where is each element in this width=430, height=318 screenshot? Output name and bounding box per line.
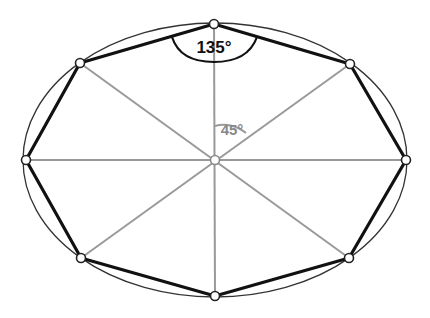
interior-angle-label: 135°: [196, 38, 231, 57]
vertex-center: [211, 156, 220, 165]
vertex-top-right: [346, 60, 355, 69]
octagon-diagram: 135° 45°: [0, 0, 430, 318]
vertex-top: [210, 20, 219, 29]
central-angle-label: 45°: [221, 121, 244, 138]
vertex-top-left: [76, 59, 85, 68]
vertex-bottom: [211, 292, 220, 301]
vertex-right: [402, 156, 411, 165]
vertex-bottom-left: [77, 254, 86, 263]
vertex-bottom-right: [345, 254, 354, 263]
vertex-left: [22, 156, 31, 165]
